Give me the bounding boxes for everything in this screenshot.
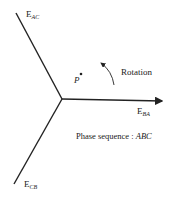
label-e-ba: EBA (137, 107, 150, 117)
rotation-arrow-icon (101, 63, 114, 85)
label-e-ba-subscript: BA (143, 111, 150, 117)
label-e-cb-subscript: CB (30, 184, 38, 190)
phasor-e-ba-line (62, 99, 162, 101)
phasor-e-cb-line (14, 99, 62, 184)
point-p-dot (80, 73, 83, 76)
label-e-ac-subscript: AC (32, 14, 40, 20)
label-e-ac: EAC (26, 10, 39, 20)
label-phase-sequence: Phase sequence : ABC (76, 132, 152, 141)
phase-sequence-value: ABC (136, 131, 152, 141)
phase-sequence-text: Phase sequence : (76, 131, 136, 141)
phasor-e-ac-line (16, 13, 62, 99)
label-rotation: Rotation (121, 68, 152, 77)
phasor-diagram-canvas (0, 0, 171, 200)
label-point-p: P (74, 76, 80, 85)
label-e-cb: ECB (24, 180, 37, 190)
